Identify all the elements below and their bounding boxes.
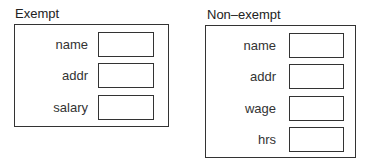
nonexempt-wage-field[interactable]	[289, 96, 344, 121]
nonexempt-name-field[interactable]	[289, 33, 344, 58]
nonexempt-panel-title: Non–exempt	[207, 8, 281, 22]
nonexempt-name-label: name	[216, 39, 276, 53]
nonexempt-hrs-field[interactable]	[289, 127, 344, 152]
exempt-addr-field[interactable]	[98, 63, 154, 88]
exempt-salary-label: salary	[28, 101, 88, 115]
nonexempt-wage-label: wage	[216, 102, 276, 116]
exempt-addr-label: addr	[28, 69, 88, 83]
nonexempt-addr-field[interactable]	[289, 64, 344, 89]
exempt-salary-field[interactable]	[98, 95, 154, 120]
exempt-panel-title: Exempt	[15, 7, 59, 21]
nonexempt-addr-label: addr	[216, 70, 276, 84]
exempt-name-field[interactable]	[98, 32, 154, 57]
nonexempt-hrs-label: hrs	[216, 133, 276, 147]
exempt-name-label: name	[28, 38, 88, 52]
